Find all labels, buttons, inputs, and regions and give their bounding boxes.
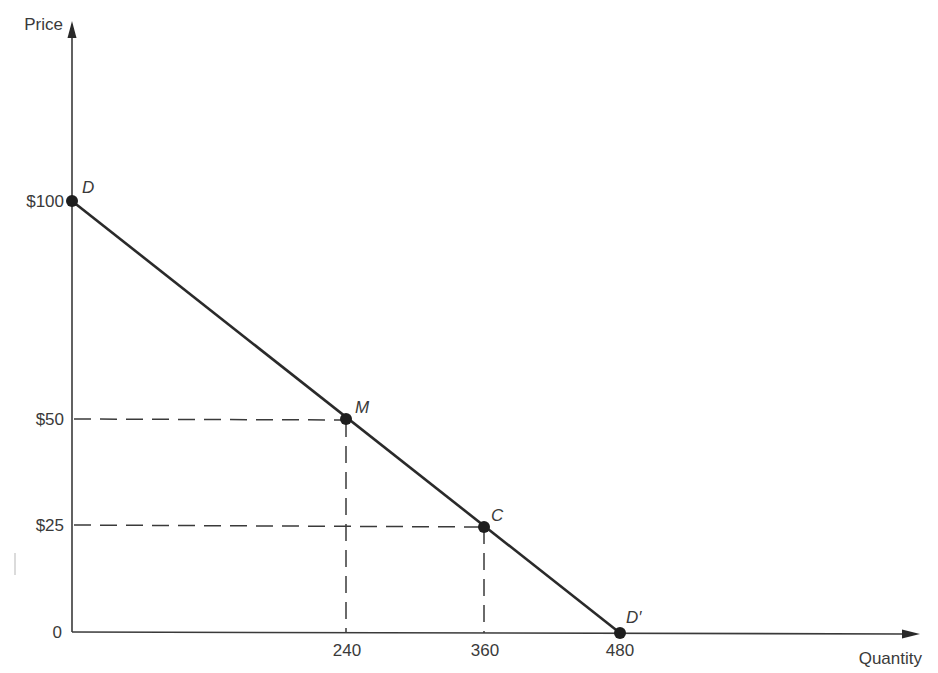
x-axis: Quantity 240 360 480 bbox=[72, 630, 922, 669]
point-m bbox=[340, 413, 352, 425]
point-d bbox=[66, 195, 78, 207]
y-tick-50: $50 bbox=[36, 410, 64, 429]
y-axis: Price $100 $50 $25 0 bbox=[24, 15, 76, 642]
label-c: C bbox=[491, 506, 504, 525]
x-tick-240: 240 bbox=[333, 641, 361, 660]
guide-h-25 bbox=[74, 525, 484, 527]
y-axis-title: Price bbox=[24, 15, 63, 34]
point-dprime bbox=[614, 627, 626, 639]
x-tick-480: 480 bbox=[606, 641, 634, 660]
point-c bbox=[478, 521, 490, 533]
x-tick-360: 360 bbox=[471, 641, 499, 660]
y-tick-25: $25 bbox=[36, 516, 64, 535]
guide-lines bbox=[74, 419, 484, 633]
guide-h-50 bbox=[74, 419, 346, 420]
label-d: D bbox=[82, 178, 94, 197]
demand-chart: Price $100 $50 $25 0 Quantity 240 360 48… bbox=[0, 0, 938, 673]
label-dprime: D′ bbox=[626, 608, 642, 627]
label-m: M bbox=[355, 398, 370, 417]
x-axis-arrow-icon bbox=[902, 630, 920, 639]
y-tick-100: $100 bbox=[26, 192, 64, 211]
y-tick-0: 0 bbox=[53, 623, 62, 642]
x-axis-title: Quantity bbox=[859, 649, 923, 668]
y-axis-arrow-icon bbox=[68, 21, 77, 38]
